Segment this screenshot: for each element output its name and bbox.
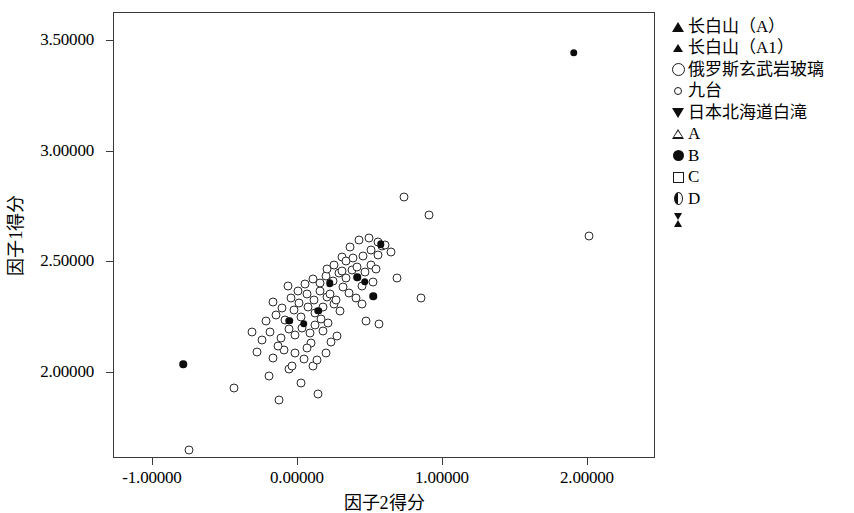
legend-item[interactable]: C bbox=[668, 167, 850, 188]
data-point bbox=[377, 240, 385, 248]
y-tick-label: 2.50000 bbox=[40, 251, 94, 271]
data-point bbox=[357, 300, 366, 309]
legend-item-label: 长白山（A1） bbox=[688, 38, 794, 58]
data-point bbox=[265, 371, 274, 380]
data-point bbox=[336, 307, 345, 316]
plot-area bbox=[113, 12, 655, 458]
data-point bbox=[253, 347, 262, 356]
scatter-plot-figure: 因子1得分 3.500003.000002.500002.00000 -1.00… bbox=[0, 0, 854, 513]
y-tick-label: 3.00000 bbox=[40, 141, 94, 161]
data-point bbox=[247, 328, 256, 337]
x-tick-mark bbox=[152, 458, 153, 465]
y-axis-title: 因子1得分 bbox=[1, 195, 27, 276]
data-points-layer bbox=[114, 13, 654, 457]
data-point bbox=[365, 233, 374, 242]
legend-item-label: A bbox=[688, 124, 700, 144]
data-point bbox=[275, 396, 284, 405]
marker-glyph bbox=[673, 150, 684, 161]
data-point bbox=[257, 335, 266, 344]
legend-item[interactable]: 俄罗斯玄武岩玻璃 bbox=[668, 59, 850, 80]
data-point bbox=[286, 293, 295, 302]
data-point bbox=[269, 298, 278, 307]
data-point bbox=[349, 253, 358, 262]
data-point bbox=[302, 344, 311, 353]
legend-item[interactable]: D bbox=[668, 188, 850, 209]
data-point bbox=[372, 265, 381, 274]
data-point bbox=[361, 278, 369, 286]
data-point bbox=[360, 268, 369, 277]
marker-glyph bbox=[674, 192, 683, 205]
triangle-up-filled-small-icon bbox=[668, 38, 688, 58]
hourglass-icon bbox=[668, 210, 688, 230]
data-point bbox=[283, 282, 292, 291]
data-point bbox=[273, 342, 282, 351]
data-point bbox=[180, 360, 188, 368]
x-tick-label: 1.00000 bbox=[415, 468, 469, 488]
legend-item[interactable]: B bbox=[668, 145, 850, 166]
legend-item[interactable] bbox=[668, 210, 850, 231]
data-point bbox=[354, 274, 362, 282]
data-point bbox=[323, 264, 332, 273]
data-point bbox=[375, 320, 384, 329]
triangle-up-open-icon bbox=[668, 124, 688, 144]
legend-item[interactable]: A bbox=[668, 124, 850, 145]
x-tick-label: 2.00000 bbox=[560, 468, 614, 488]
data-point bbox=[318, 326, 327, 335]
data-point bbox=[370, 293, 378, 301]
data-point bbox=[337, 266, 346, 275]
triangle-down-filled-icon bbox=[668, 103, 688, 123]
marker-glyph bbox=[672, 63, 685, 76]
data-point bbox=[288, 362, 297, 371]
data-point bbox=[326, 280, 334, 288]
data-point bbox=[331, 295, 340, 304]
data-point bbox=[333, 332, 342, 341]
data-point bbox=[314, 390, 323, 399]
x-axis-title: 因子2得分 bbox=[344, 488, 425, 513]
legend-item[interactable]: 日本北海道白滝 bbox=[668, 102, 850, 123]
data-point bbox=[295, 298, 304, 307]
y-tick-mark bbox=[106, 372, 113, 373]
data-point bbox=[324, 319, 333, 328]
legend: 长白山（A）长白山（A1）俄罗斯玄武岩玻璃九台日本北海道白滝ABCD bbox=[668, 16, 850, 231]
legend-item-label: 俄罗斯玄武岩玻璃 bbox=[688, 60, 824, 80]
marker-glyph bbox=[673, 172, 684, 183]
legend-item[interactable]: 长白山（A1） bbox=[668, 38, 850, 59]
triangle-up-filled-icon bbox=[668, 17, 688, 37]
y-tick-mark bbox=[106, 261, 113, 262]
data-point bbox=[300, 320, 308, 328]
data-point bbox=[369, 278, 378, 287]
marker-glyph bbox=[672, 129, 684, 139]
data-point bbox=[312, 355, 321, 364]
data-point bbox=[417, 293, 426, 302]
x-tick-mark bbox=[297, 458, 298, 465]
data-point bbox=[299, 355, 308, 364]
x-tick-mark bbox=[587, 458, 588, 465]
data-point bbox=[362, 316, 371, 325]
data-point bbox=[230, 384, 239, 393]
data-point bbox=[305, 329, 314, 338]
y-tick-mark bbox=[106, 40, 113, 41]
y-tick-label: 3.50000 bbox=[40, 30, 94, 50]
data-point bbox=[386, 248, 395, 257]
legend-item[interactable]: 九台 bbox=[668, 81, 850, 102]
data-point bbox=[346, 242, 355, 251]
data-point bbox=[315, 279, 324, 288]
data-point bbox=[399, 193, 408, 202]
y-tick-mark bbox=[106, 151, 113, 152]
data-point bbox=[296, 378, 305, 387]
data-point bbox=[286, 317, 294, 325]
data-point bbox=[315, 307, 323, 315]
marker-glyph bbox=[672, 108, 684, 118]
legend-item-label: 日本北海道白滝 bbox=[688, 103, 807, 123]
data-point bbox=[424, 210, 433, 219]
legend-item[interactable]: 长白山（A） bbox=[668, 16, 850, 37]
data-point bbox=[570, 49, 578, 57]
marker-glyph bbox=[674, 87, 682, 95]
square-open-icon bbox=[668, 167, 688, 187]
legend-item-label: C bbox=[688, 167, 699, 187]
circle-open-small-icon bbox=[668, 81, 688, 101]
marker-glyph bbox=[674, 213, 683, 227]
x-tick-label: 0.00000 bbox=[270, 468, 324, 488]
legend-item-label: B bbox=[688, 146, 699, 166]
data-point bbox=[309, 295, 318, 304]
